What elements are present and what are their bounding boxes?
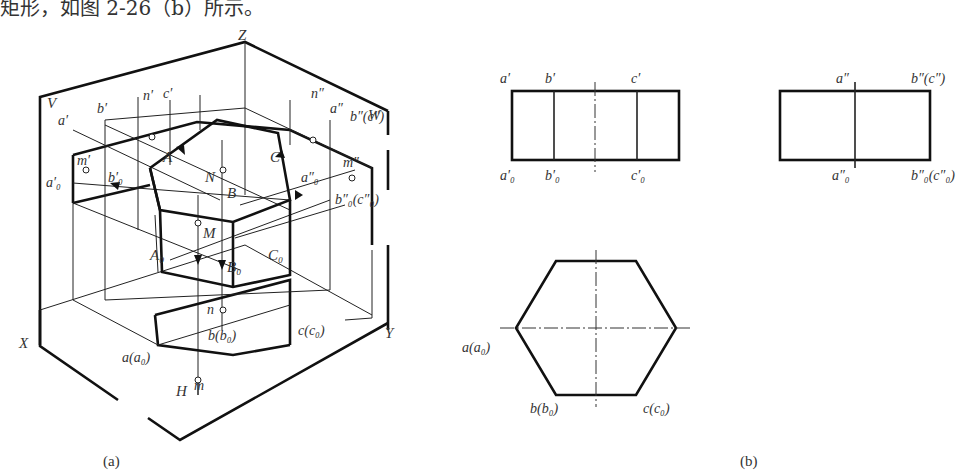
label-y-axis: Y <box>385 325 395 341</box>
h-plane-frame <box>148 323 388 440</box>
label-h-plane: H <box>175 383 188 399</box>
top-view: a(a₀) b(b₀) c(c₀) <box>462 250 692 417</box>
svg-text:a′₀: a′₀ <box>46 175 61 190</box>
figure-b-orthographic: a′ b′ c′ a′₀ b′₀ c′₀ a″ b″(c″) a″₀ b″₀(c… <box>462 71 955 470</box>
svg-text:N: N <box>204 169 216 185</box>
side-view: a″ b″(c″) a″₀ b″₀(c″₀) <box>780 71 955 184</box>
svg-text:b′: b′ <box>545 71 556 86</box>
svg-text:b(b₀): b(b₀) <box>208 328 237 344</box>
caption-b: (b) <box>740 453 758 470</box>
svg-text:b′₀: b′₀ <box>108 170 123 185</box>
svg-text:m″: m″ <box>343 155 359 170</box>
svg-text:b″₀(c″₀): b″₀(c″₀) <box>911 168 955 184</box>
svg-text:a″: a″ <box>836 71 849 86</box>
svg-text:B₀: B₀ <box>227 259 241 275</box>
svg-text:b″(c″): b″(c″) <box>911 71 946 87</box>
svg-text:M: M <box>202 225 217 241</box>
svg-text:m′: m′ <box>77 153 91 168</box>
svg-text:b″₀(c″₀): b″₀(c″₀) <box>335 192 379 208</box>
svg-text:C: C <box>270 149 281 165</box>
svg-text:C₀: C₀ <box>268 247 283 263</box>
svg-text:a(a₀): a(a₀) <box>462 340 491 356</box>
front-view: a′ b′ c′ a′₀ b′₀ c′₀ <box>500 71 679 183</box>
svg-text:a″₀: a″₀ <box>301 170 319 185</box>
svg-text:a″₀: a″₀ <box>832 168 850 183</box>
svg-text:c′: c′ <box>631 71 641 86</box>
label-v-plane: V <box>47 95 58 111</box>
svg-text:m: m <box>194 378 204 393</box>
svg-text:a″: a″ <box>330 101 343 116</box>
svg-text:c(c₀): c(c₀) <box>298 323 325 339</box>
svg-text:A: A <box>162 149 173 165</box>
svg-text:a′: a′ <box>58 113 69 128</box>
svg-text:a′₀: a′₀ <box>500 168 515 183</box>
svg-text:n: n <box>207 302 214 317</box>
figure-a-pictorial: Z X Y V W H a′ b′ n′ c′ n″ a″ b″(c″) m′ … <box>18 27 395 470</box>
label-z-axis: Z <box>238 27 247 43</box>
projection-diagram: Z X Y V W H a′ b′ n′ c′ n″ a″ b″(c″) m′ … <box>0 0 979 475</box>
svg-text:b″(c″): b″(c″) <box>350 109 385 125</box>
svg-text:b′₀: b′₀ <box>545 168 560 183</box>
svg-text:c′: c′ <box>163 86 173 101</box>
svg-text:b′: b′ <box>97 101 108 116</box>
caption-a: (a) <box>103 453 120 470</box>
svg-text:n″: n″ <box>311 86 324 101</box>
svg-text:n′: n′ <box>143 88 154 103</box>
svg-text:a(a₀): a(a₀) <box>122 350 151 366</box>
svg-text:c′₀: c′₀ <box>631 168 645 183</box>
svg-text:A₀: A₀ <box>149 247 164 263</box>
svg-text:b(b₀): b(b₀) <box>530 401 559 417</box>
svg-text:c(c₀): c(c₀) <box>643 401 670 417</box>
label-x-axis: X <box>18 335 29 351</box>
svg-text:a′: a′ <box>500 71 511 86</box>
svg-text:B: B <box>227 185 236 201</box>
